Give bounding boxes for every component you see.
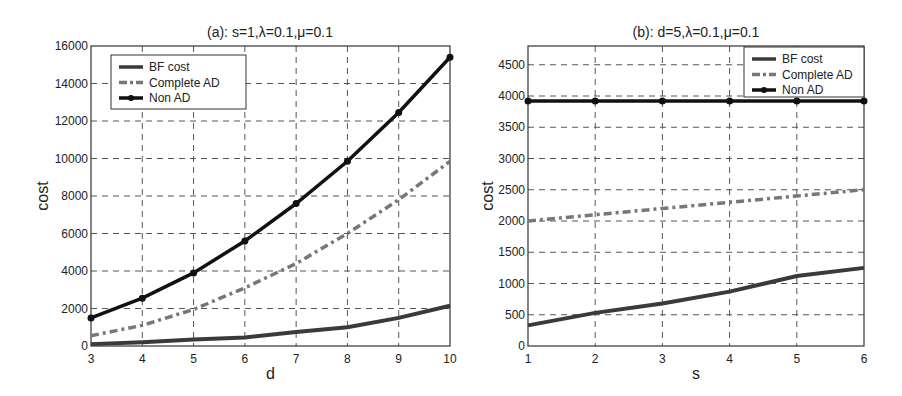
series-complete-ad: [528, 190, 864, 221]
y-tick-label: 16000: [55, 39, 89, 53]
y-tick-label: 1500: [498, 245, 525, 259]
x-tick-label: 1: [525, 352, 532, 366]
data-point: [241, 238, 248, 245]
y-tick-label: 1000: [498, 277, 525, 291]
x-axis-label: s: [692, 365, 700, 382]
y-tick-label: 2500: [498, 183, 525, 197]
legend-label: BF cost: [149, 60, 190, 74]
series-bf-cost: [528, 268, 864, 326]
data-point: [395, 109, 402, 116]
series-complete-ad: [91, 161, 450, 335]
x-tick-label: 6: [242, 352, 249, 366]
x-tick-label: 4: [726, 352, 733, 366]
data-point: [139, 295, 146, 302]
y-tick-label: 4500: [498, 58, 525, 72]
legend-label: Complete AD: [149, 76, 220, 90]
y-tick-label: 8000: [61, 189, 88, 203]
data-point: [88, 314, 95, 321]
x-tick-label: 6: [861, 352, 868, 366]
y-axis-label: cost: [479, 181, 496, 211]
data-point: [861, 98, 868, 105]
y-tick-label: 0: [81, 339, 88, 353]
series-bf-cost: [91, 306, 450, 344]
y-tick-label: 6000: [61, 227, 88, 241]
x-tick-label: 8: [344, 352, 351, 366]
x-tick-label: 2: [592, 352, 599, 366]
data-point: [344, 158, 351, 165]
y-tick-label: 2000: [61, 302, 88, 316]
data-point: [447, 54, 454, 61]
y-tick-label: 10000: [55, 152, 89, 166]
y-tick-label: 3500: [498, 120, 525, 134]
x-tick-label: 9: [395, 352, 402, 366]
x-tick-label: 5: [190, 352, 197, 366]
y-tick-label: 0: [518, 339, 525, 353]
data-point: [592, 98, 599, 105]
chart-a: 3456789100200040006000800010000120001400…: [34, 24, 457, 382]
y-tick-label: 500: [505, 308, 525, 322]
legend: BF costComplete ADNon AD: [744, 47, 864, 97]
x-tick-label: 4: [139, 352, 146, 366]
chart-a: 3456789100200040006000800010000120001400…: [0, 0, 902, 396]
x-tick-label: 7: [293, 352, 300, 366]
y-tick-label: 12000: [55, 114, 89, 128]
data-point: [726, 98, 733, 105]
chart-b: 1234560500100015002000250030003500400045…: [479, 24, 868, 382]
x-tick-label: 10: [443, 352, 457, 366]
data-point: [659, 98, 666, 105]
legend-label: Non AD: [149, 91, 191, 105]
legend-label: Non AD: [782, 83, 824, 97]
legend: BF costComplete ADNon AD: [111, 55, 246, 109]
chart-title: (b): d=5,λ=0.1,μ=0.1: [633, 24, 760, 40]
data-point: [293, 200, 300, 207]
y-tick-label: 14000: [55, 77, 89, 91]
data-point: [525, 98, 532, 105]
y-tick-label: 4000: [498, 89, 525, 103]
data-point: [793, 98, 800, 105]
legend-label: BF cost: [782, 52, 823, 66]
chart-title: (a): s=1,λ=0.1,μ=0.1: [207, 24, 333, 40]
y-axis-label: cost: [34, 181, 51, 211]
legend-label: Complete AD: [782, 68, 853, 82]
x-axis-label: d: [266, 365, 275, 382]
data-point: [190, 269, 197, 276]
y-tick-label: 2000: [498, 214, 525, 228]
x-tick-label: 3: [659, 352, 666, 366]
x-tick-label: 3: [88, 352, 95, 366]
x-tick-label: 5: [793, 352, 800, 366]
y-tick-label: 4000: [61, 264, 88, 278]
y-tick-label: 3000: [498, 152, 525, 166]
